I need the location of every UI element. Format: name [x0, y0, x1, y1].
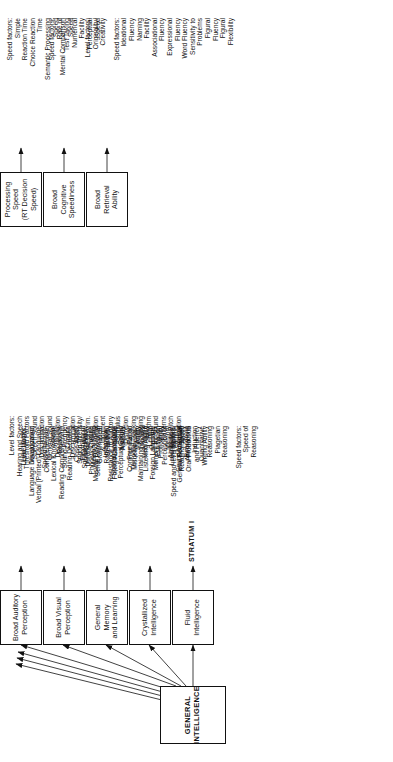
factor-item: Time [36, 18, 44, 148]
factors-broad-retrieval-ability: Level factors:Originality/CreativitySpee… [84, 18, 234, 148]
factor-item: Hearing and Speech [16, 416, 24, 566]
factor-group: Level factors:Hearing and SpeechThreshol… [8, 416, 183, 566]
three-stratum-diagram: STRATUM III STRATUM II STRATUM I GENERAL… [0, 0, 393, 762]
factor-item: Reaction Time [21, 18, 29, 148]
factor-item: Fluency [158, 18, 166, 148]
factor-item: Simple [14, 18, 22, 148]
factor-item: Reasoning [250, 426, 258, 566]
node-crystallized-intelligence[interactable]: Crystallized Intelligence [129, 590, 171, 645]
factor-item: Mental Comparison [59, 18, 67, 148]
factor-item: Speed [67, 18, 75, 148]
factor-item: Distortion [122, 416, 130, 566]
factor-item: Temporal Tracking [130, 416, 138, 566]
factor-item: Sound-Intensity/ [76, 416, 84, 566]
node-general-intelligence-label: GENERAL INTELLIGENCE [184, 686, 201, 744]
factor-item: Problems [196, 18, 204, 148]
factor-item: Speed [94, 18, 102, 148]
factor-item: Fluency [174, 18, 182, 148]
node-broad-cognitive-speediness-label: Broad Cognitive Speediness [51, 175, 77, 224]
factor-item: Word Fluency [181, 18, 189, 148]
factors-processing-speed: Speed factors:SimpleReaction TimeChoice … [6, 18, 74, 148]
factor-group: Speed factors:Speed ofReasoning [235, 426, 258, 566]
factor-item: Fluency [128, 18, 136, 148]
factor-item: Discrimination [54, 416, 62, 566]
factor-item: Reasoning [221, 426, 229, 566]
node-broad-cognitive-speediness[interactable]: Broad Cognitive Speediness [43, 172, 85, 227]
node-processing-speed-label: Processing Speed (RT Decision Speed) [4, 175, 38, 224]
node-general-memory-learning-label: General Memory and Learning [94, 593, 120, 642]
factor-item: Discrimination [69, 416, 77, 566]
factor-item: Associational [151, 18, 159, 148]
node-broad-retrieval-ability[interactable]: Broad Retrieval Ability [86, 172, 128, 227]
factor-item: Figural [219, 18, 227, 148]
factor-group: Speed factors:IdeationalFluencyNamingFac… [113, 18, 235, 148]
factor-item: Ideational [120, 18, 128, 148]
factor-item: Musical Discrimination [92, 416, 100, 566]
node-general-memory-learning[interactable]: General Memory and Learning [86, 590, 128, 645]
node-fluid-intelligence-label: Fluid Intelligence [184, 599, 201, 635]
factor-item: Threshold Factors [23, 416, 31, 566]
factor-item: Patterns [160, 416, 168, 566]
factor-item: Sound Localization [175, 416, 183, 566]
factor-item: Facility [78, 18, 86, 148]
factor-group-heading: Level factors: [8, 416, 16, 566]
factor-item: Stimulus [114, 416, 122, 566]
factor-item: General Sound [46, 416, 54, 566]
factor-item: Alternations [184, 426, 192, 566]
factor-group-heading: Speed factors: [113, 18, 121, 148]
factor-group: Speed factors:SimpleReaction TimeChoice … [6, 18, 74, 148]
factor-item: Figural [204, 18, 212, 148]
factor-item: Absolute Pitch [167, 416, 175, 566]
node-broad-visual-perception-label: Broad Visual Perception [55, 597, 72, 638]
factor-item: Facility [143, 18, 151, 148]
factor-item: Choice Reaction [29, 18, 37, 148]
factor-item: Resistance to Auditory [107, 416, 115, 566]
factor-item: Perceptual [86, 18, 94, 148]
factor-item: Piagetian [214, 426, 222, 566]
factor-item: and Fluency [193, 426, 201, 566]
factor-item: Maintaining & Judging [137, 416, 145, 566]
factor-item: & Judgment [99, 416, 107, 566]
factor-item: Speed of [242, 426, 250, 566]
factor-item: Speed [52, 18, 60, 148]
factor-item: Speech Sound [31, 416, 39, 566]
node-processing-speed[interactable]: Processing Speed (RT Decision Speed) [0, 172, 42, 227]
node-crystallized-intelligence-label: Crystallized Intelligence [141, 599, 158, 636]
factor-item: Rhythm [145, 416, 153, 566]
factor-group-heading: Speed factors: [235, 426, 243, 566]
factor-item: Semantic Processing [44, 18, 52, 148]
factor-item: Fluency [212, 18, 220, 148]
node-broad-auditory-perception-label: Broad Auditory Perception [12, 594, 29, 641]
factor-item: Expressional [166, 18, 174, 148]
factors-broad-auditory-perception: Level factors:Hearing and SpeechThreshol… [8, 416, 183, 566]
factor-item: Duration Discrim. [84, 416, 92, 566]
factor-item: Writing Ability [201, 426, 209, 566]
factor-item: Flexibility [227, 18, 235, 148]
node-broad-retrieval-ability-label: Broad Retrieval Ability [94, 175, 120, 224]
factor-item: Discrimination [38, 416, 46, 566]
factor-item: Sensitivity to [189, 18, 197, 148]
node-fluid-intelligence[interactable]: Fluid Intelligence [172, 590, 214, 645]
factor-group-heading: Speed factors: [6, 18, 14, 148]
factor-item: Naming [136, 18, 144, 148]
factor-item: Memory for Sound [152, 416, 160, 566]
node-general-intelligence[interactable]: GENERAL INTELLIGENCE [160, 686, 226, 744]
factor-item: Sound-Frequency [61, 416, 69, 566]
node-broad-visual-perception[interactable]: Broad Visual Perception [43, 590, 85, 645]
node-broad-auditory-perception[interactable]: Broad Auditory Perception [0, 590, 42, 645]
